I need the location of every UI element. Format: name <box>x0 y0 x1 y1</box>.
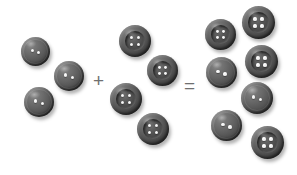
button-hole-2 <box>223 72 226 75</box>
button-hole-1 <box>31 49 34 52</box>
button-inner-recess <box>143 119 163 139</box>
button-hole-1 <box>158 66 161 69</box>
button-addend-two-1-4hole <box>119 25 151 57</box>
button-hole-1 <box>221 123 224 126</box>
button-hole-1 <box>34 99 37 102</box>
button-hole-3 <box>216 36 219 39</box>
button-inner-recess <box>251 51 271 71</box>
plus-operator: + <box>93 71 104 90</box>
button-hole-1 <box>252 95 255 98</box>
button-hole-1 <box>216 70 219 73</box>
button-hole-3 <box>121 101 124 104</box>
button-inner-recess <box>257 132 277 152</box>
button-hole-3 <box>148 131 151 134</box>
button-hole-2 <box>128 94 131 97</box>
button-hole-2 <box>260 17 263 20</box>
button-hole-2 <box>137 36 140 39</box>
button-addend-one-2-2hole <box>54 61 84 91</box>
button-addend-one-1-2hole <box>21 37 50 66</box>
button-hole-4 <box>128 101 131 104</box>
button-hole-2 <box>71 76 74 79</box>
equals-operator: = <box>184 76 195 95</box>
button-sum-3-2hole <box>206 57 237 88</box>
button-hole-2 <box>222 30 225 33</box>
button-hole-2 <box>41 102 44 105</box>
button-hole-2 <box>228 125 231 128</box>
button-inner-recess <box>125 31 145 51</box>
button-hole-4 <box>269 144 272 147</box>
button-addend-two-2-4hole <box>147 55 178 86</box>
button-hole-1 <box>262 137 265 140</box>
button-hole-2 <box>164 66 167 69</box>
button-sum-7-4hole <box>251 126 284 159</box>
button-hole-2 <box>269 137 272 140</box>
button-hole-1 <box>256 56 259 59</box>
button-rim-line <box>23 39 47 63</box>
button-hole-2 <box>263 56 266 59</box>
buttons-addition-illustration: += <box>0 0 297 175</box>
button-hole-1 <box>216 30 219 33</box>
button-sum-5-2hole <box>241 82 273 114</box>
button-sum-2-4hole <box>242 6 275 39</box>
button-rim-line <box>26 89 51 114</box>
button-hole-3 <box>256 63 259 66</box>
button-addend-one-3-2hole <box>24 87 54 117</box>
button-hole-3 <box>158 72 161 75</box>
button-hole-4 <box>260 24 263 27</box>
button-hole-3 <box>130 43 133 46</box>
button-rim-line <box>208 59 234 85</box>
button-hole-4 <box>137 43 140 46</box>
button-hole-2 <box>155 124 158 127</box>
button-hole-3 <box>262 144 265 147</box>
button-addend-two-3-4hole <box>110 83 142 115</box>
button-rim-line <box>56 63 81 88</box>
button-hole-4 <box>263 63 266 66</box>
button-sum-1-4hole <box>205 19 236 50</box>
button-hole-4 <box>155 131 158 134</box>
button-hole-3 <box>253 24 256 27</box>
button-sum-4-4hole <box>245 45 278 78</box>
button-inner-recess <box>116 89 136 109</box>
button-addend-two-4-4hole <box>137 113 169 145</box>
button-inner-recess <box>248 12 268 32</box>
button-hole-1 <box>253 17 256 20</box>
button-rim-line <box>213 112 239 138</box>
button-sum-6-2hole <box>211 110 242 141</box>
button-hole-1 <box>64 73 67 76</box>
